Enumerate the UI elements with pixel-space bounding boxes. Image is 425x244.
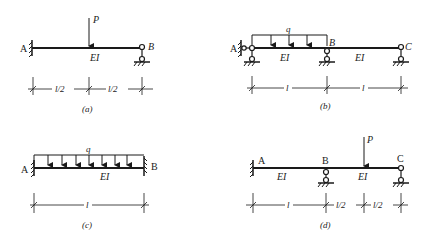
node-label-a: A [21, 164, 29, 175]
beam-diagrams: A B P EI l/2 l/2 (a) [0, 0, 425, 244]
caption-c: (c) [82, 220, 92, 230]
load-label-p: P [92, 14, 99, 25]
beam-label-ei: EI [99, 171, 110, 182]
dimension-label: l/2 [336, 200, 346, 210]
fixed-support-icon [29, 40, 32, 57]
node-label-c: C [405, 41, 412, 52]
fixed-support-icon [144, 156, 147, 176]
caption-d: (d) [320, 220, 331, 230]
pin-support-icon [319, 49, 335, 67]
caption-b: (b) [320, 101, 331, 111]
beam-label-ei: EI [354, 52, 365, 63]
node-label-b: B [148, 41, 154, 52]
dimension-line [247, 76, 408, 94]
fixed-support-icon [250, 160, 253, 177]
node-label-a: A [20, 43, 28, 54]
node-label-a: A [230, 43, 238, 54]
node-label-b: B [322, 155, 329, 166]
dimension-label: l/2 [373, 200, 383, 210]
beam-label-ei: EI [357, 171, 368, 182]
dimension-line [28, 77, 153, 95]
load-label-q: q [286, 24, 291, 34]
panel-b [238, 35, 409, 94]
beam-label-ei: EI [89, 52, 100, 63]
beam-label-ei: EI [276, 171, 287, 182]
dimension-label: l/2 [55, 84, 65, 94]
distributed-load-icon [34, 155, 144, 166]
distributed-load-icon [252, 35, 327, 46]
dimension-label: l/2 [108, 84, 118, 94]
load-label-q: q [86, 144, 91, 154]
pin-support-icon [318, 170, 334, 188]
node-label-b: B [329, 37, 335, 48]
node-label-b: B [151, 161, 158, 172]
caption-a: (a) [82, 104, 93, 114]
wall-hinge-icon [238, 40, 250, 57]
load-label-p: P [366, 134, 373, 145]
node-label-c: C [397, 153, 404, 164]
beam-label-ei: EI [279, 52, 290, 63]
node-label-a: A [258, 155, 266, 166]
